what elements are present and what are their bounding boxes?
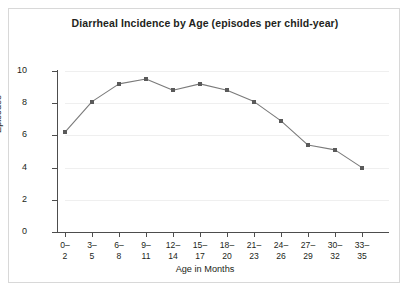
data-point <box>171 88 175 92</box>
data-point <box>360 166 364 170</box>
data-point <box>225 88 229 92</box>
data-point <box>306 143 310 147</box>
data-point <box>252 100 256 104</box>
data-point <box>117 82 121 86</box>
data-point <box>198 82 202 86</box>
y-axis-label: Episodes <box>0 95 3 133</box>
data-point <box>90 100 94 104</box>
chart-figure: Diarrheal Incidence by Age (episodes per… <box>8 8 400 283</box>
data-point <box>63 130 67 134</box>
data-point <box>144 77 148 81</box>
series-line <box>9 9 401 284</box>
data-point <box>279 119 283 123</box>
data-point <box>333 148 337 152</box>
